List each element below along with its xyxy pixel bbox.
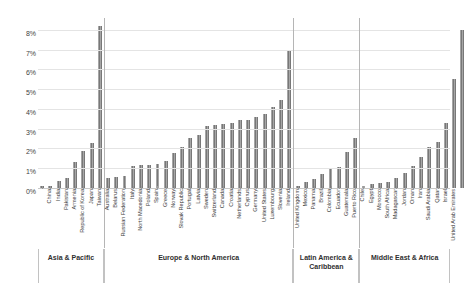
x-tickmark-11: [133, 186, 134, 189]
x-tickmark-17: [182, 186, 183, 189]
category-label-4: Republic of Korea: [78, 189, 87, 247]
x-tickmark-22: [223, 186, 224, 189]
x-tickmark-42: [388, 186, 389, 189]
x-tickmark-19: [199, 186, 200, 189]
bar-5: [81, 151, 85, 188]
region-group-2: Latin America & Caribbean: [293, 249, 359, 283]
x-tickmark-14: [157, 186, 158, 189]
gridline-4: [38, 109, 450, 110]
x-tickmark-45: [413, 186, 414, 189]
x-tickmark-27: [265, 186, 266, 189]
y-axis-tick-labels: 0%1%2%3%4%5%6%7%8%: [16, 18, 36, 188]
bar-16: [172, 153, 176, 188]
bar-25: [246, 120, 250, 188]
x-tickmark-34: [322, 186, 323, 189]
bar-22: [221, 124, 225, 188]
bar-51: [460, 30, 464, 188]
category-label-21: Canada: [218, 189, 227, 247]
bar-29: [279, 100, 283, 188]
x-tickmark-25: [248, 186, 249, 189]
x-tickmark-4: [75, 186, 76, 189]
bar-15: [164, 161, 168, 188]
x-tickmark-40: [372, 186, 373, 189]
x-tickmark-3: [67, 186, 68, 189]
x-tickmark-35: [331, 186, 332, 189]
region-group-label-1: Europe & North America: [158, 253, 239, 262]
bar-46: [419, 157, 423, 188]
gridline-2: [38, 148, 450, 149]
category-label-46: Saudi Arabia: [424, 189, 433, 247]
category-label-25: Germany: [251, 189, 260, 247]
category-axis-labels: ChinaIndiaPakistanArmeniaRepublic of Kor…: [38, 189, 450, 247]
region-group-3: Middle East & Africa: [359, 249, 450, 283]
category-label-29: Ireland: [284, 189, 293, 247]
plot-area: [38, 18, 450, 188]
x-tickmark-32: [306, 186, 307, 189]
bar-26: [254, 117, 258, 188]
x-tickmark-39: [363, 186, 364, 189]
x-tickmark-6: [92, 186, 93, 189]
x-tickmark-44: [405, 186, 406, 189]
x-tickmark-15: [166, 186, 167, 189]
gridline-1: [38, 168, 450, 169]
region-group-label-2: Latin America & Caribbean: [297, 253, 356, 271]
region-group-label-0: Asia & Pacific: [48, 253, 94, 262]
bar-20: [205, 126, 209, 188]
bar-4: [73, 162, 77, 188]
x-tickmark-37: [347, 186, 348, 189]
x-tickmark-43: [396, 186, 397, 189]
bar-45: [411, 166, 415, 188]
bar-23: [230, 123, 234, 188]
x-tickmark-10: [125, 186, 126, 189]
x-tickmark-9: [116, 186, 117, 189]
bar-37: [345, 152, 349, 188]
gridline-7: [38, 50, 450, 51]
gridline-8: [38, 30, 450, 31]
x-tickmark-49: [446, 186, 447, 189]
x-tickmark-36: [339, 186, 340, 189]
x-tickmark-5: [83, 186, 84, 189]
x-tickmark-29: [281, 186, 282, 189]
bar-49: [444, 123, 448, 188]
bar-19: [197, 135, 201, 188]
x-tickmark-23: [232, 186, 233, 189]
region-group-band: Asia & PacificEurope & North AmericaLati…: [38, 249, 450, 283]
x-tickmark-38: [355, 186, 356, 189]
gridline-3: [38, 129, 450, 130]
bar-24: [238, 120, 242, 188]
x-tickmark-48: [438, 186, 439, 189]
region-group-1: Europe & North America: [104, 249, 294, 283]
region-group-0: Asia & Pacific: [38, 249, 104, 283]
bar-36: [337, 167, 341, 188]
x-tickmark-41: [380, 186, 381, 189]
x-tickmark-31: [298, 186, 299, 189]
x-tickmark-26: [256, 186, 257, 189]
x-tickmark-21: [215, 186, 216, 189]
gridline-6: [38, 69, 450, 70]
bar-18: [188, 138, 192, 188]
x-tickmark-18: [190, 186, 191, 189]
x-tickmark-47: [429, 186, 430, 189]
x-tickmark-28: [273, 186, 274, 189]
region-group-label-3: Middle East & Africa: [371, 253, 438, 262]
bar-50: [452, 79, 456, 188]
category-label-49: United Arab Emirates: [449, 189, 458, 247]
bar-27: [263, 114, 267, 188]
category-label-0: China: [45, 189, 54, 247]
x-tickmark-7: [100, 186, 101, 189]
bar-11: [131, 166, 135, 188]
x-tickmark-33: [314, 186, 315, 189]
bar-21: [213, 125, 217, 188]
x-tickmark-20: [207, 186, 208, 189]
x-tickmark-0: [42, 186, 43, 189]
x-tickmark-2: [59, 186, 60, 189]
x-tickmark-30: [289, 186, 290, 189]
x-tickmark-24: [240, 186, 241, 189]
gridline-5: [38, 89, 450, 90]
x-tickmark-1: [50, 186, 51, 189]
bars-layer: [38, 18, 450, 188]
x-tickmark-46: [421, 186, 422, 189]
x-tickmark-13: [149, 186, 150, 189]
bar-38: [353, 138, 357, 188]
